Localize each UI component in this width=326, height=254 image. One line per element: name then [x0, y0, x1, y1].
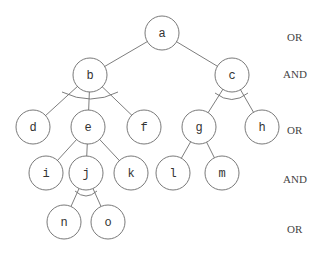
- level-labels: OR AND OR AND OR: [283, 31, 307, 235]
- node-j: j: [69, 156, 103, 190]
- node-label-k: k: [127, 167, 134, 181]
- level-label-1: AND: [283, 68, 307, 80]
- node-label-i: i: [42, 167, 49, 181]
- node-label-b: b: [86, 69, 93, 83]
- node-label-e: e: [84, 121, 91, 135]
- node-label-j: j: [82, 167, 89, 181]
- node-b: b: [73, 58, 107, 92]
- node-label-f: f: [140, 121, 147, 135]
- node-label-g: g: [195, 121, 202, 135]
- node-l: l: [156, 156, 190, 190]
- and-arc-j: [75, 191, 97, 196]
- node-label-n: n: [60, 216, 67, 230]
- node-a: a: [145, 16, 179, 50]
- and-or-tree-diagram: a b c d e f g h i j k l m n o OR AND OR …: [0, 0, 326, 254]
- node-c: c: [215, 58, 249, 92]
- node-label-a: a: [158, 27, 165, 41]
- node-label-l: l: [169, 167, 176, 181]
- node-label-o: o: [104, 216, 111, 230]
- node-label-h: h: [258, 121, 265, 135]
- node-d: d: [16, 110, 50, 144]
- level-label-4: OR: [287, 223, 303, 235]
- node-g: g: [182, 110, 216, 144]
- node-label-c: c: [228, 69, 235, 83]
- node-h: h: [245, 110, 279, 144]
- level-label-0: OR: [287, 31, 303, 43]
- nodes: a b c d e f g h i j k l m n o: [16, 16, 279, 239]
- node-n: n: [47, 205, 81, 239]
- level-label-3: AND: [283, 173, 307, 185]
- node-m: m: [205, 156, 239, 190]
- node-label-d: d: [29, 121, 36, 135]
- node-e: e: [71, 110, 105, 144]
- node-i: i: [29, 156, 63, 190]
- node-k: k: [114, 156, 148, 190]
- level-label-2: OR: [287, 124, 303, 136]
- node-label-m: m: [218, 167, 225, 181]
- node-f: f: [127, 110, 161, 144]
- node-o: o: [91, 205, 125, 239]
